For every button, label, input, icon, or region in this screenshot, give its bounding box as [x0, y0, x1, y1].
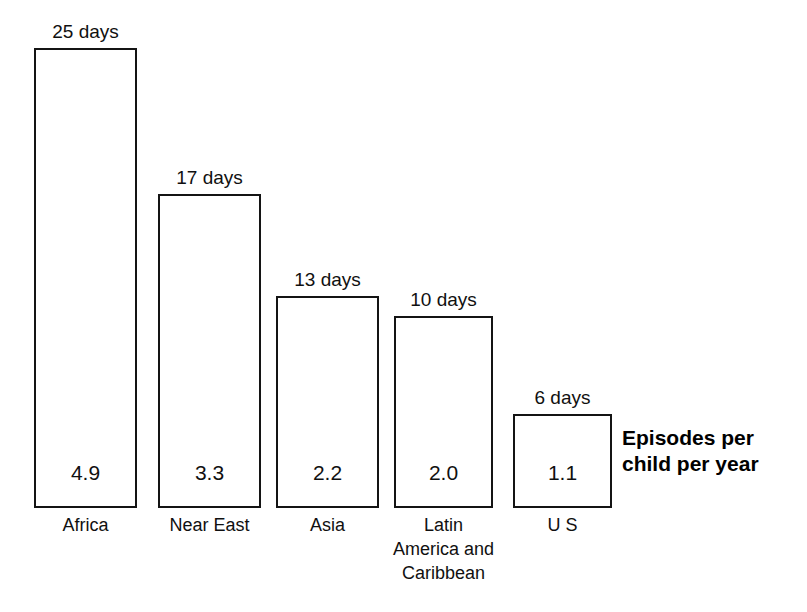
bar-top-label-near-east: 17 days: [120, 167, 300, 189]
category-line: Caribbean: [344, 561, 544, 585]
bar-top-label-latin-america: 10 days: [354, 289, 534, 311]
bar-top-label-us: 6 days: [473, 387, 653, 409]
category-line: America and: [344, 537, 544, 561]
annotation-line: child per year: [622, 451, 759, 477]
bar-top-label-asia: 13 days: [238, 269, 418, 291]
bar-value-label-africa: 4.9: [16, 461, 156, 485]
annotation-line: Episodes per: [622, 425, 759, 451]
bar-category-label-us: U S: [463, 513, 663, 537]
bar-value-label-us: 1.1: [493, 461, 633, 485]
category-line: U S: [463, 513, 663, 537]
bar-chart: 25 days 4.9 Africa 17 days 3.3 Near East…: [0, 0, 807, 612]
y-axis-annotation: Episodes perchild per year: [622, 425, 759, 477]
bar-top-label-africa: 25 days: [0, 21, 176, 43]
bar-rect-africa: [34, 48, 137, 508]
